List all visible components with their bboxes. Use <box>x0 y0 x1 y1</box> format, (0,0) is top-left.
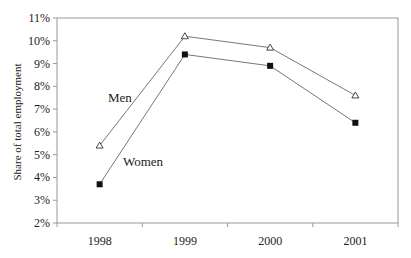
y-axis-title: Share of total employment <box>11 64 23 181</box>
x-tick-label: 1998 <box>88 234 112 248</box>
x-tick-label: 2000 <box>258 234 282 248</box>
x-tick-label: 2001 <box>343 234 367 248</box>
series-label-men: Men <box>108 90 132 105</box>
square-marker <box>352 120 358 126</box>
y-tick-label: 9% <box>34 57 50 71</box>
triangle-marker <box>181 33 188 39</box>
y-tick-label: 5% <box>34 148 50 162</box>
square-marker <box>267 63 273 69</box>
y-tick-label: 4% <box>34 170 50 184</box>
square-marker <box>97 181 103 187</box>
square-marker <box>182 51 188 57</box>
x-tick-labels: 1998199920002001 <box>88 234 368 248</box>
series-line-men <box>100 36 356 145</box>
y-tick-label: 3% <box>34 193 50 207</box>
y-tick-label: 8% <box>34 79 50 93</box>
y-tick-label: 6% <box>34 125 50 139</box>
triangle-marker <box>352 92 359 98</box>
y-tick-labels: 2%3%4%5%6%7%8%9%10%11% <box>28 11 50 230</box>
series-label-women: Women <box>123 154 164 169</box>
y-tick-label: 11% <box>28 11 50 25</box>
y-tick-label: 2% <box>34 216 50 230</box>
axes <box>53 18 398 227</box>
x-tick-label: 1999 <box>173 234 197 248</box>
y-tick-label: 7% <box>34 102 50 116</box>
y-tick-label: 10% <box>28 34 50 48</box>
line-chart: 2%3%4%5%6%7%8%9%10%11% 1998199920002001 … <box>0 0 411 258</box>
plot-area-border <box>57 18 398 223</box>
